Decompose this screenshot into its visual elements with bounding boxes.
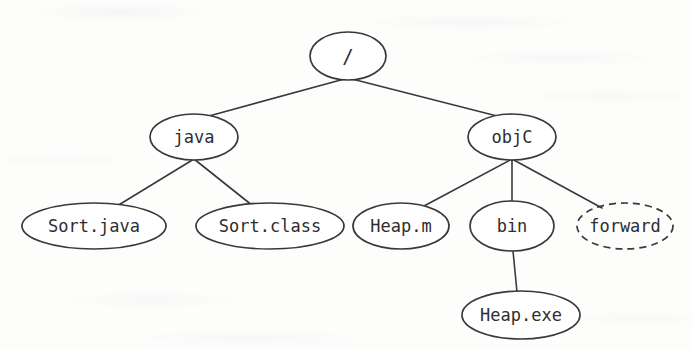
diagram-canvas: /javaobjCSort.javaSort.classHeap.mbinfor…	[0, 0, 692, 350]
tree-diagram: /javaobjCSort.javaSort.classHeap.mbinfor…	[0, 0, 692, 350]
tree-edge-objc-to-heapm	[424, 159, 512, 206]
tree-node-root[interactable]: /	[310, 32, 386, 80]
tree-edge-java-to-sortclass	[194, 159, 253, 206]
tree-node-java[interactable]: java	[150, 114, 238, 160]
tree-edge-objc-to-forward	[512, 159, 602, 208]
node-label-root: /	[342, 45, 353, 67]
tree-edge-bin-to-heapexe	[513, 251, 517, 292]
tree-node-sortjava[interactable]: Sort.java	[22, 203, 166, 249]
tree-node-objc[interactable]: objC	[468, 114, 556, 160]
edges-layer	[117, 78, 602, 292]
tree-node-heapm[interactable]: Heap.m	[353, 203, 449, 249]
tree-edge-root-to-java	[209, 78, 348, 116]
tree-node-heapexe[interactable]: Heap.exe	[462, 291, 580, 339]
tree-edge-java-to-sortjava	[117, 159, 194, 206]
node-label-objc: objC	[492, 127, 533, 147]
node-label-sortclass: Sort.class	[219, 216, 321, 236]
node-label-forward: forward	[589, 216, 661, 236]
node-label-java: java	[174, 127, 215, 147]
node-label-heapm: Heap.m	[370, 216, 431, 236]
node-label-sortjava: Sort.java	[48, 216, 140, 236]
tree-node-bin[interactable]: bin	[470, 201, 554, 251]
tree-node-sortclass[interactable]: Sort.class	[196, 203, 344, 249]
nodes-layer: /javaobjCSort.javaSort.classHeap.mbinfor…	[22, 32, 673, 339]
node-label-heapexe: Heap.exe	[480, 305, 562, 325]
node-label-bin: bin	[497, 216, 528, 236]
tree-edge-root-to-objc	[348, 78, 497, 116]
tree-node-forward[interactable]: forward	[577, 203, 673, 249]
